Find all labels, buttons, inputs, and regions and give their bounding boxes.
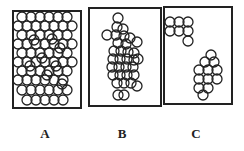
panel-c-cluster-top xyxy=(165,17,193,46)
panel-c-cluster-bottom xyxy=(194,50,222,100)
panel-b xyxy=(89,8,161,106)
panel-c xyxy=(164,7,232,104)
panel-c-label: C xyxy=(191,126,200,142)
panel-a-label: A xyxy=(40,126,49,142)
panel-a-circles xyxy=(13,12,77,105)
panel-b-label: B xyxy=(118,126,127,142)
panel-b-circles xyxy=(102,13,143,100)
panel-a xyxy=(13,11,81,108)
